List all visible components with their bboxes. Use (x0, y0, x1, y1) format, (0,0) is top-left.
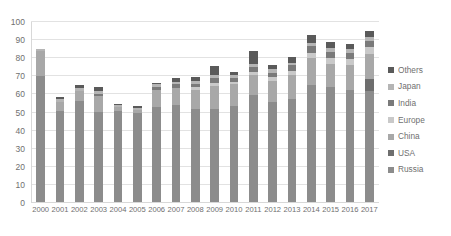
bar-column (249, 51, 258, 203)
bar-segment-russia (133, 113, 142, 203)
bar-segment-russia (172, 105, 181, 203)
bar-column (268, 65, 277, 203)
bar-segment-china (307, 58, 316, 85)
bar-segment-russia (365, 91, 374, 203)
bar-segment-china (36, 51, 45, 76)
x-axis-tick-2014: 2014 (303, 205, 320, 214)
bar-segment-others (307, 35, 316, 43)
legend-label: India (398, 99, 416, 108)
bar-segment-russia (307, 85, 316, 203)
legend-swatch-icon (388, 100, 394, 106)
bar-segment-usa (365, 79, 374, 91)
bar-segment-russia (75, 101, 84, 203)
legend-label: USA (398, 149, 415, 158)
x-axis-tick-2006: 2006 (148, 205, 165, 214)
bar-segment-russia (326, 87, 335, 203)
x-axis-tick-2011: 2011 (245, 205, 261, 214)
bar-segment-russia (191, 109, 200, 203)
legend-item-china[interactable]: China (388, 128, 448, 145)
bar-segment-china (288, 75, 297, 99)
bar-column (94, 87, 103, 203)
y-axis-tick-40: 40 (16, 126, 25, 135)
bar-column (152, 83, 161, 203)
bar-segment-china (75, 91, 84, 101)
legend-item-usa[interactable]: USA (388, 145, 448, 162)
bar-segment-russia (114, 111, 123, 203)
x-axis-tick-2004: 2004 (110, 205, 127, 214)
bar-segment-others (210, 66, 219, 74)
bar-column (133, 106, 142, 203)
legend-label: Europe (398, 116, 425, 125)
x-axis-tick-2015: 2015 (322, 205, 339, 214)
x-axis-tick-2008: 2008 (187, 205, 204, 214)
y-axis-tick-100: 100 (11, 18, 25, 27)
bar-series-container (31, 22, 379, 203)
bar-segment-russia (94, 112, 103, 203)
bar-segment-china (365, 54, 374, 79)
bar-segment-russia (288, 99, 297, 203)
x-axis-tick-2000: 2000 (32, 205, 49, 214)
bar-segment-china (56, 102, 65, 111)
bar-segment-china (152, 90, 161, 107)
chart-legend: OthersJapanIndiaEuropeChinaUSARussia (388, 62, 448, 178)
bar-column (56, 97, 65, 203)
x-axis-tick-2002: 2002 (71, 205, 88, 214)
bar-segment-russia (346, 90, 355, 203)
y-axis-line (31, 22, 32, 203)
bar-segment-russia (230, 106, 239, 203)
bar-segment-china (210, 86, 219, 109)
bar-segment-china (249, 75, 258, 95)
bar-segment-china (268, 81, 277, 102)
x-axis-tick-2013: 2013 (284, 205, 301, 214)
x-axis-tick-2016: 2016 (342, 205, 359, 214)
bar-column (346, 44, 355, 203)
x-axis-tick-2007: 2007 (168, 205, 185, 214)
bar-segment-china (346, 65, 355, 89)
bar-column (36, 49, 45, 203)
bar-segment-china (326, 64, 335, 88)
x-axis-tick-2010: 2010 (226, 205, 243, 214)
bar-column (172, 78, 181, 203)
bar-segment-china (172, 88, 181, 105)
bar-column (230, 72, 239, 203)
bar-segment-others (249, 51, 258, 64)
y-axis-tick-80: 80 (16, 54, 25, 63)
bar-segment-russia (56, 111, 65, 203)
legend-label: Russia (398, 165, 423, 174)
bar-segment-russia (249, 95, 258, 203)
legend-item-europe[interactable]: Europe (388, 112, 448, 129)
x-axis-tick-2003: 2003 (90, 205, 107, 214)
bar-column (326, 42, 335, 203)
legend-label: China (398, 132, 420, 141)
y-axis-tick-0: 0 (20, 199, 25, 208)
bar-segment-russia (268, 102, 277, 203)
bar-column (75, 85, 84, 203)
y-axis-tick-60: 60 (16, 90, 25, 99)
bar-segment-china (94, 96, 103, 111)
bar-segment-china (191, 90, 200, 109)
y-axis-tick-30: 30 (16, 144, 25, 153)
legend-item-russia[interactable]: Russia (388, 162, 448, 179)
bar-column (365, 31, 374, 203)
bar-segment-russia (152, 107, 161, 203)
legend-item-japan[interactable]: Japan (388, 79, 448, 96)
bar-column (191, 77, 200, 203)
stacked-bar-chart: 0102030405060708090100 20002001200220032… (0, 0, 451, 236)
legend-item-others[interactable]: Others (388, 62, 448, 79)
x-axis-tick-2009: 2009 (206, 205, 223, 214)
x-axis-tick-2017: 2017 (361, 205, 378, 214)
x-axis-tick-2001: 2001 (52, 205, 69, 214)
plot-area (31, 22, 379, 203)
bar-segment-russia (36, 76, 45, 203)
bar-column (307, 35, 316, 203)
bar-segment-russia (210, 109, 219, 203)
x-axis-line (31, 202, 379, 203)
legend-swatch-icon (388, 84, 394, 90)
y-axis-tick-90: 90 (16, 36, 25, 45)
x-axis-tick-2012: 2012 (264, 205, 281, 214)
legend-swatch-icon (388, 167, 394, 173)
y-axis-labels: 0102030405060708090100 (0, 22, 29, 203)
bar-segment-china (230, 84, 239, 106)
legend-item-india[interactable]: India (388, 95, 448, 112)
bar-column (210, 66, 219, 203)
